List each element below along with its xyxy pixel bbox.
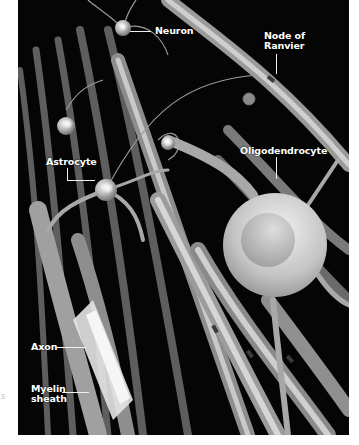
astrocyte-leader-line-horizontal bbox=[67, 180, 95, 181]
oligodendrocyte-leader-line bbox=[276, 157, 277, 179]
label-node-of-ranvier-line2: Ranvier bbox=[264, 41, 305, 51]
nervous-tissue-illustration: Neuron Node of Ranvier Astrocyte Oligode… bbox=[18, 0, 349, 435]
label-myelin-sheath-line2: sheath bbox=[31, 394, 67, 404]
neuron-leader-line bbox=[130, 31, 151, 32]
myelin-sheath-leader-line bbox=[62, 392, 89, 393]
axon-leader-line bbox=[56, 347, 86, 348]
node-of-ranvier-leader-line bbox=[276, 54, 277, 74]
label-node-of-ranvier: Node of Ranvier bbox=[264, 31, 305, 51]
label-oligodendrocyte: Oligodendrocyte bbox=[240, 146, 327, 156]
label-astrocyte: Astrocyte bbox=[46, 157, 97, 167]
label-neuron: Neuron bbox=[155, 26, 194, 36]
label-myelin-sheath: Myelin sheath bbox=[31, 384, 67, 404]
label-axon: Axon bbox=[31, 342, 57, 352]
margin-mark: s bbox=[1, 392, 5, 401]
astrocyte-leader-line-vertical bbox=[67, 168, 68, 180]
oligodendrocyte-nucleus bbox=[241, 213, 295, 267]
illustration-artwork bbox=[18, 0, 349, 435]
